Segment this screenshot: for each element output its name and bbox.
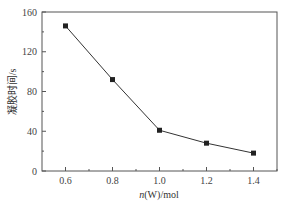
data-point-marker (204, 141, 209, 146)
y-axis-label: 凝胶时间/s (6, 69, 18, 116)
plot-frame (42, 12, 277, 171)
y-tick-label: 80 (27, 86, 37, 97)
data-point-marker (110, 77, 115, 82)
x-axis: 0.60.81.01.21.4 (59, 167, 277, 186)
plot-border (42, 12, 277, 171)
x-tick-label: 0.6 (59, 175, 72, 186)
data-point-marker (251, 151, 256, 156)
y-tick-label: 40 (27, 126, 37, 137)
x-tick-label: 1.2 (200, 175, 213, 186)
x-tick-label: 0.8 (106, 175, 119, 186)
data-point-marker (63, 23, 68, 28)
data-series (63, 23, 256, 155)
x-tick-label: 1.4 (247, 175, 260, 186)
x-tick-label: 1.0 (153, 175, 166, 186)
line-chart: 04080120160 0.60.81.01.21.4 凝胶时间/s n(W)/… (0, 0, 285, 205)
series-line (66, 26, 254, 153)
y-tick-label: 120 (22, 46, 37, 57)
data-point-marker (157, 128, 162, 133)
y-tick-label: 160 (22, 7, 37, 18)
y-tick-label: 0 (32, 166, 37, 177)
x-axis-label: n(W)/mol (139, 189, 179, 201)
y-axis: 04080120160 (22, 7, 46, 177)
